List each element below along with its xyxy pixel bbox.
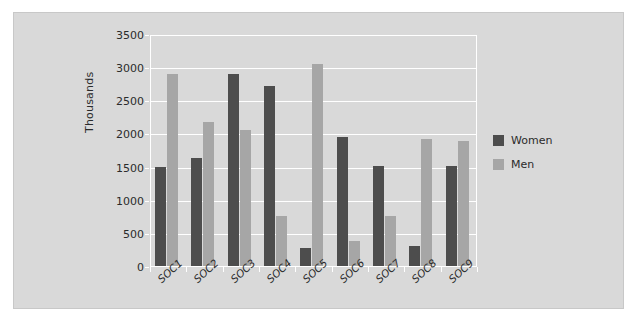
y-tick-label: 1000 xyxy=(116,196,144,207)
x-tick-mark xyxy=(368,267,369,272)
y-tick-label: 2000 xyxy=(116,129,144,140)
bar-group xyxy=(404,35,440,266)
x-tick-mark xyxy=(150,267,151,272)
y-tick-label: 500 xyxy=(123,229,144,240)
chart-legend: WomenMen xyxy=(493,131,603,179)
y-tick-label: 0 xyxy=(137,262,144,273)
bar-group xyxy=(150,35,186,266)
bar-women-soc4[interactable] xyxy=(264,86,275,266)
plot-area: SOC1SOC2SOC3SOC4SOC5SOC6SOC7SOC8SOC9 xyxy=(150,35,477,267)
bar-group xyxy=(186,35,222,266)
x-tick-mark xyxy=(186,267,187,272)
y-axis-title: Thousands xyxy=(83,72,96,133)
legend-label-women: Women xyxy=(511,135,552,146)
x-tick-mark xyxy=(259,267,260,272)
bar-women-soc1[interactable] xyxy=(155,167,166,266)
x-tick-mark xyxy=(477,267,478,272)
bar-women-soc8[interactable] xyxy=(409,246,420,266)
x-tick-mark xyxy=(404,267,405,272)
x-tick-mark xyxy=(332,267,333,272)
bar-group xyxy=(295,35,331,266)
bar-women-soc6[interactable] xyxy=(337,137,348,266)
x-tick-mark xyxy=(295,267,296,272)
x-tick-mark xyxy=(223,267,224,272)
bar-men-soc8[interactable] xyxy=(421,139,432,266)
bar-group xyxy=(441,35,477,266)
y-tick-label: 3500 xyxy=(116,30,144,41)
bar-women-soc2[interactable] xyxy=(191,158,202,266)
y-tick-mark xyxy=(145,201,149,202)
chart-figure: Thousands 0500100015002000250030003500 S… xyxy=(13,12,624,309)
bar-men-soc2[interactable] xyxy=(203,122,214,266)
y-axis-tick-labels: 0500100015002000250030003500 xyxy=(98,35,144,267)
y-tick-mark xyxy=(145,234,149,235)
y-tick-mark xyxy=(145,101,149,102)
legend-item-women[interactable]: Women xyxy=(493,131,603,149)
bar-group xyxy=(223,35,259,266)
bar-group xyxy=(259,35,295,266)
bar-women-soc5[interactable] xyxy=(300,248,311,266)
y-tick-mark xyxy=(145,267,149,268)
y-tick-mark xyxy=(145,168,149,169)
legend-swatch-women xyxy=(493,135,504,146)
bar-women-soc7[interactable] xyxy=(373,166,384,266)
y-tick-mark xyxy=(145,68,149,69)
y-tick-mark xyxy=(145,134,149,135)
legend-label-men: Men xyxy=(511,159,534,170)
x-tick-mark xyxy=(441,267,442,272)
bar-women-soc9[interactable] xyxy=(446,166,457,266)
bar-group xyxy=(332,35,368,266)
bar-men-soc9[interactable] xyxy=(458,141,469,266)
bar-women-soc3[interactable] xyxy=(228,74,239,266)
bar-men-soc5[interactable] xyxy=(312,64,323,266)
y-tick-label: 2500 xyxy=(116,96,144,107)
y-tick-label: 1500 xyxy=(116,163,144,174)
y-tick-mark xyxy=(145,35,149,36)
bar-men-soc3[interactable] xyxy=(240,130,251,266)
bar-men-soc1[interactable] xyxy=(167,74,178,266)
y-tick-label: 3000 xyxy=(116,63,144,74)
legend-item-men[interactable]: Men xyxy=(493,155,603,173)
legend-swatch-men xyxy=(493,159,504,170)
bar-group xyxy=(368,35,404,266)
